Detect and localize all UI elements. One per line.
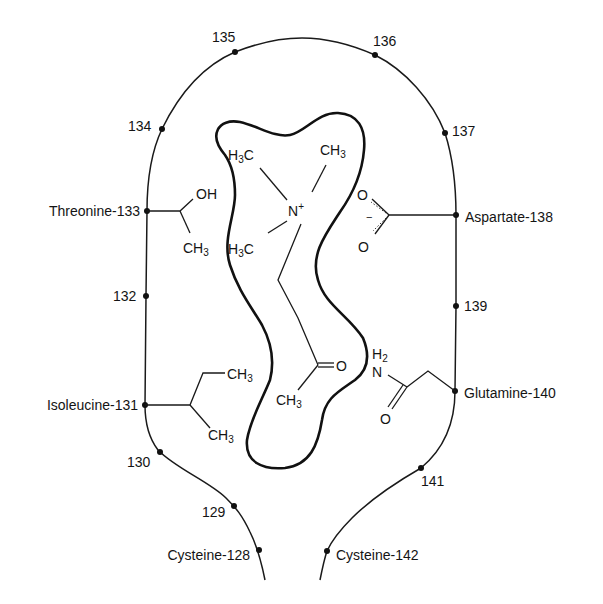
residue-label-132: 132: [113, 288, 137, 304]
residue-label-aspartate-138: Aspartate-138: [465, 209, 553, 225]
residue-label-threonine-133: Threonine-133: [49, 203, 140, 219]
residue-label-130: 130: [127, 454, 151, 470]
isoleucine-side-chain: CH3 CH3: [145, 366, 253, 445]
threonine-ch3: CH3: [183, 240, 209, 258]
ligand-methyl-h3c-bottom: H3C: [228, 241, 254, 259]
residue-label-cysteine-142: Cysteine-142: [336, 547, 419, 563]
residue-label-cysteine-128: Cysteine-128: [168, 547, 251, 563]
threonine-side-chain: OH CH3: [147, 186, 217, 258]
backbone-left-strand: [145, 38, 456, 580]
isoleucine-ch3-lower: CH3: [208, 427, 234, 445]
residue-dot-136: [372, 52, 378, 58]
residue-label-135: 135: [212, 29, 236, 45]
residue-label-139: 139: [464, 298, 488, 314]
residue-labels: 135 136 134 137 Threonine-133 Aspartate-…: [47, 29, 556, 563]
residue-label-141: 141: [421, 473, 445, 489]
residue-dot-141: [418, 465, 424, 471]
residue-label-isoleucine-131: Isoleucine-131: [47, 397, 138, 413]
residue-label-137: 137: [452, 123, 476, 139]
residue-dot-135: [232, 49, 238, 55]
aspartate-side-chain: O O −: [357, 187, 456, 255]
binding-pocket-outline: [216, 113, 367, 468]
glutamine-h2: H2: [372, 346, 388, 364]
residue-markers: [142, 49, 459, 554]
residue-label-136: 136: [373, 33, 397, 49]
peptide-backbone: [145, 38, 456, 580]
residue-dot-134: [159, 126, 165, 132]
ligand-carbonyl-o: O: [336, 358, 347, 374]
residue-label-134: 134: [128, 118, 152, 134]
aspartate-o-top: O: [357, 187, 368, 203]
residue-label-glutamine-140: Glutamine-140: [464, 385, 556, 401]
residue-dot-139: [453, 303, 459, 309]
residue-dot-128: [256, 547, 262, 553]
glutamine-n: N: [372, 364, 382, 380]
residue-dot-132: [143, 293, 149, 299]
aspartate-o-bottom: O: [358, 239, 369, 255]
glutamine-o: O: [380, 411, 391, 427]
glutamine-side-chain: H2 N O: [372, 346, 455, 427]
ligand-nitrogen: N+: [288, 201, 304, 219]
residue-dot-142: [324, 548, 330, 554]
ligand-acetyl-ch3: CH3: [276, 392, 302, 410]
residue-dot-129: [231, 503, 237, 509]
residue-dot-137: [442, 130, 448, 136]
ligand-methyl-h3c-top: H3C: [228, 147, 254, 165]
acetylcholine-binding-site-diagram: 135 136 134 137 Threonine-133 Aspartate-…: [0, 0, 603, 604]
residue-label-129: 129: [202, 504, 226, 520]
threonine-oh: OH: [196, 186, 217, 202]
isoleucine-ch3-upper: CH3: [227, 366, 253, 384]
residue-dot-130: [157, 449, 163, 455]
aspartate-charge: −: [366, 211, 372, 223]
ligand-methyl-ch3-top: CH3: [320, 142, 346, 160]
